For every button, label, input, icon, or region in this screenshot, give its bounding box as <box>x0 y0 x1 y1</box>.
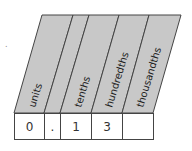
stray-mark: . <box>5 40 8 49</box>
value-hundredths: 3 <box>91 113 123 140</box>
value-tenths: 1 <box>60 113 92 140</box>
value-units: 0 <box>14 113 45 140</box>
value-thousandths <box>122 113 154 140</box>
value-point: . <box>44 113 61 140</box>
